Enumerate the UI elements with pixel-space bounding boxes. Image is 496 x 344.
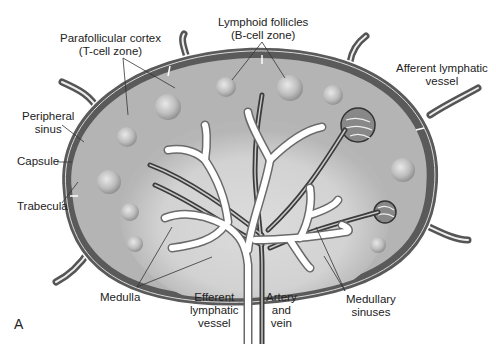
panel-letter: A	[14, 316, 23, 332]
label-efferent-lymphatic-vessel: Efferent lymphatic vessel	[190, 291, 239, 330]
label-parafollicular-cortex: Parafollicular cortex (T-cell zone)	[60, 32, 161, 58]
label-artery-and-vein: Artery and vein	[266, 291, 297, 330]
label-medulla: Medulla	[100, 291, 140, 304]
label-medullary-sinuses: Medullary sinuses	[346, 293, 396, 319]
label-lymphoid-follicles: Lymphoid follicles (B-cell zone)	[218, 16, 308, 42]
label-peripheral-sinus: Peripheral sinus	[22, 110, 74, 136]
label-capsule: Capsule	[17, 155, 59, 168]
label-afferent-lymphatic-vessel: Afferent lymphatic vessel	[396, 62, 488, 88]
label-trabecula: Trabecula	[17, 200, 68, 213]
